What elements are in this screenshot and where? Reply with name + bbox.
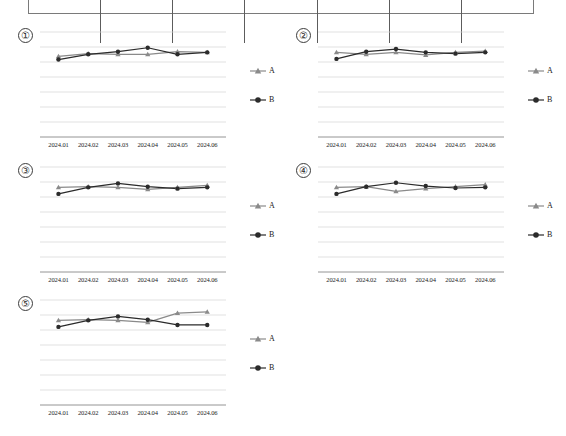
data-point-B xyxy=(175,52,179,56)
legend-label-b: B xyxy=(269,230,274,240)
legend-label-a: A xyxy=(269,334,275,344)
x-tick-label: 2024.03 xyxy=(380,141,412,148)
plot-area-3 xyxy=(18,165,232,276)
plot-wrapper-2 xyxy=(296,30,510,141)
legend-label-b: B xyxy=(269,363,274,373)
x-axis-labels-3: 2024.012024.022024.032024.042024.052024.… xyxy=(18,276,232,286)
data-point-B xyxy=(334,192,338,196)
data-point-B xyxy=(394,47,398,51)
data-point-B xyxy=(205,50,209,54)
legend-label-a: A xyxy=(269,66,275,76)
data-point-B xyxy=(56,325,60,329)
plot-area-4 xyxy=(296,165,510,276)
chart-panel-5: ⑤2024.012024.022024.032024.042024.052024… xyxy=(18,296,282,421)
triangle-marker-icon xyxy=(250,66,266,76)
legend-item-a[interactable]: A xyxy=(250,66,275,76)
x-tick-label: 2024.06 xyxy=(469,276,501,283)
x-tick-label: 2024.02 xyxy=(72,141,104,148)
data-point-B xyxy=(116,314,120,318)
triangle-marker-icon xyxy=(528,201,544,211)
plot-wrapper-1 xyxy=(18,30,232,141)
x-tick-label: 2024.06 xyxy=(469,141,501,148)
data-point-B xyxy=(146,184,150,188)
legend-label-a: A xyxy=(269,201,275,211)
data-point-B xyxy=(394,181,398,185)
circle-marker-icon xyxy=(528,230,544,240)
x-axis-labels-5: 2024.012024.022024.032024.042024.052024.… xyxy=(18,409,232,419)
data-point-B xyxy=(116,181,120,185)
data-point-B xyxy=(334,57,338,61)
x-tick-label: 2024.06 xyxy=(191,141,223,148)
triangle-marker-icon xyxy=(250,201,266,211)
data-point-B xyxy=(56,57,60,61)
legend-item-b[interactable]: B xyxy=(250,95,275,105)
data-point-B xyxy=(483,50,487,54)
data-point-B xyxy=(86,318,90,322)
circle-marker-icon xyxy=(250,230,266,240)
data-point-B xyxy=(56,192,60,196)
legend-item-a[interactable]: A xyxy=(528,66,553,76)
data-point-B xyxy=(116,49,120,53)
data-point-B xyxy=(364,184,368,188)
data-point-B xyxy=(175,323,179,327)
data-point-B xyxy=(453,51,457,55)
x-tick-label: 2024.02 xyxy=(350,141,382,148)
x-tick-label: 2024.05 xyxy=(162,276,194,283)
circle-marker-icon xyxy=(250,95,266,105)
data-point-B xyxy=(364,49,368,53)
data-point-B xyxy=(483,185,487,189)
legend-item-b[interactable]: B xyxy=(250,230,275,240)
x-tick-label: 2024.01 xyxy=(43,409,75,416)
series-line-A xyxy=(58,312,207,323)
series-line-B xyxy=(58,48,207,60)
x-tick-label: 2024.01 xyxy=(321,276,353,283)
data-point-B xyxy=(86,52,90,56)
data-point-B xyxy=(424,184,428,188)
x-tick-label: 2024.02 xyxy=(72,276,104,283)
circle-marker-icon xyxy=(528,95,544,105)
plot-area-2 xyxy=(296,30,510,141)
plot-wrapper-3 xyxy=(18,165,232,276)
table-fragment xyxy=(28,0,534,14)
legend-1: A B xyxy=(250,66,275,105)
x-tick-label: 2024.05 xyxy=(162,409,194,416)
x-tick-label: 2024.03 xyxy=(102,409,134,416)
x-tick-label: 2024.03 xyxy=(102,276,134,283)
data-point-B xyxy=(453,186,457,190)
x-tick-label: 2024.04 xyxy=(132,276,164,283)
legend-item-a[interactable]: A xyxy=(528,201,553,211)
legend-item-b[interactable]: B xyxy=(528,95,553,105)
x-tick-label: 2024.04 xyxy=(132,409,164,416)
x-tick-label: 2024.02 xyxy=(350,276,382,283)
x-tick-label: 2024.01 xyxy=(43,141,75,148)
legend-4: A B xyxy=(528,201,553,240)
x-tick-label: 2024.06 xyxy=(191,409,223,416)
legend-item-b[interactable]: B xyxy=(528,230,553,240)
x-tick-label: 2024.03 xyxy=(380,276,412,283)
data-point-B xyxy=(205,323,209,327)
x-tick-label: 2024.05 xyxy=(162,141,194,148)
x-axis-labels-4: 2024.012024.022024.032024.042024.052024.… xyxy=(296,276,510,286)
x-tick-label: 2024.05 xyxy=(440,141,472,148)
legend-item-a[interactable]: A xyxy=(250,334,275,344)
series-line-B xyxy=(336,183,485,194)
x-tick-label: 2024.01 xyxy=(43,276,75,283)
legend-label-a: A xyxy=(547,66,553,76)
x-tick-label: 2024.04 xyxy=(132,141,164,148)
chart-panel-2: ②2024.012024.022024.032024.042024.052024… xyxy=(296,28,560,148)
plot-wrapper-4 xyxy=(296,165,510,276)
data-point-B xyxy=(86,185,90,189)
legend-item-a[interactable]: A xyxy=(250,201,275,211)
legend-2: A B xyxy=(528,66,553,105)
chart-panel-1: ①2024.012024.022024.032024.042024.052024… xyxy=(18,28,282,148)
plot-wrapper-5 xyxy=(18,298,232,409)
x-tick-label: 2024.02 xyxy=(72,409,104,416)
data-point-B xyxy=(205,185,209,189)
plot-area-5 xyxy=(18,298,232,409)
legend-label-b: B xyxy=(547,230,552,240)
legend-item-b[interactable]: B xyxy=(250,363,275,373)
x-tick-label: 2024.03 xyxy=(102,141,134,148)
x-tick-label: 2024.05 xyxy=(440,276,472,283)
triangle-marker-icon xyxy=(250,334,266,344)
legend-5: A B xyxy=(250,334,275,373)
